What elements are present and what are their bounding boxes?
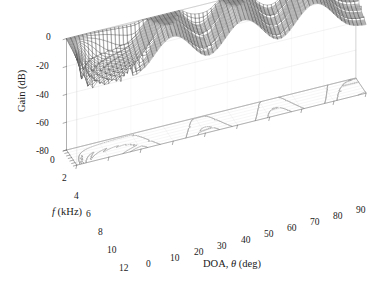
tick-gain-2: -40 [36, 90, 49, 100]
tick-doa-4: 40 [241, 235, 251, 245]
tick-frequency-5: 10 [107, 245, 117, 255]
tick-doa-7: 70 [310, 217, 320, 227]
tick-doa-5: 50 [264, 229, 274, 239]
tick-doa-0: 0 [146, 259, 151, 269]
mesh-plot-canvas [0, 0, 383, 285]
tick-doa-1: 10 [170, 253, 180, 263]
tick-gain-1: -20 [36, 61, 49, 71]
tick-frequency-3: 6 [86, 209, 91, 219]
axis-label-doa: DOA, θ (deg) [203, 258, 261, 269]
tick-frequency-6: 12 [119, 263, 129, 273]
tick-frequency-2: 4 [74, 191, 79, 201]
tick-frequency-4: 8 [98, 227, 103, 237]
tick-doa-3: 30 [217, 241, 227, 251]
axis-label-doa-prefix: DOA, [203, 258, 231, 269]
tick-doa-2: 20 [194, 247, 204, 257]
tick-doa-9: 90 [356, 205, 366, 215]
tick-gain-3: -60 [36, 118, 49, 128]
figure-3d-beampattern: Gain (dB) f (kHz) DOA, θ (deg) 0-20-40-6… [0, 0, 383, 285]
tick-gain-0: 0 [46, 32, 51, 42]
axis-label-gain: Gain (dB) [16, 70, 27, 112]
tick-doa-8: 80 [333, 211, 343, 221]
axis-label-doa-suffix: (deg) [236, 258, 261, 269]
tick-gain-4: -80 [36, 146, 49, 156]
tick-frequency-1: 2 [62, 173, 67, 183]
axis-label-frequency: f (kHz) [52, 206, 82, 217]
tick-frequency-0: 0 [50, 155, 55, 165]
tick-doa-6: 60 [287, 223, 297, 233]
axis-label-frequency-units: (kHz) [55, 206, 82, 217]
gain-surface-mesh [67, 0, 367, 88]
base-plane-contours [79, 78, 366, 164]
